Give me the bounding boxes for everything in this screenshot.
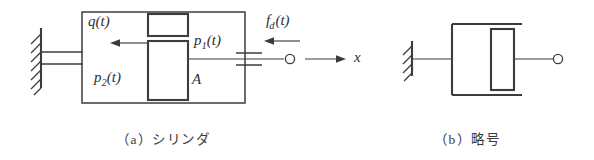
label-pressure-p2: p2(t)	[94, 70, 121, 85]
figure-root: q(t) p1(t) p2(t) A fd(t) x （a）シリンダ （b）略号	[0, 0, 594, 160]
caption-panel-a: （a）シリンダ	[116, 128, 211, 148]
rod-pin-b	[553, 54, 562, 63]
label-pressure-p1: p1(t)	[194, 33, 221, 48]
cylinder-body-b	[452, 24, 522, 95]
anchor-rod-a	[41, 52, 83, 64]
rod-pin-a	[285, 54, 294, 63]
wall-support-b	[403, 41, 412, 81]
port-block-a	[148, 14, 188, 36]
force-arrow-a	[264, 37, 300, 45]
displacement-arrow-a	[305, 55, 346, 63]
label-force-fd: fd(t)	[266, 13, 290, 28]
label-displacement-x: x	[354, 50, 361, 65]
flow-arrow-a	[110, 39, 148, 47]
piston-b	[491, 29, 514, 90]
piston-a	[148, 41, 188, 100]
wall-support-a	[31, 28, 41, 95]
caption-panel-b: （b）略号	[434, 128, 500, 148]
label-flow-q: q(t)	[88, 14, 110, 29]
label-area-A: A	[192, 72, 201, 87]
